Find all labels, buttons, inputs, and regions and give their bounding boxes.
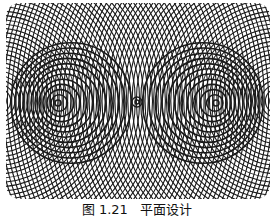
moire-pattern-graphic: [4, 1, 272, 201]
figure-caption: 图 1.21 平面设计: [0, 201, 274, 216]
moire-circles-figure: [4, 1, 272, 201]
